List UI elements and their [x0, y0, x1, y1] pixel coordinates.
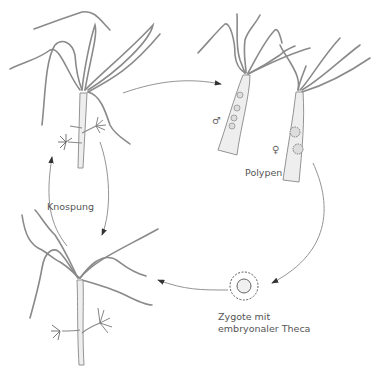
polyp-bottom-left-stalk — [51, 280, 112, 365]
polyp-top-left-stalk — [58, 93, 106, 168]
cycle-arrows — [49, 81, 324, 290]
male-polyp-body — [218, 75, 250, 155]
male-symbol-icon: ♂ — [212, 115, 221, 126]
zygote-icon — [230, 272, 258, 300]
bud-medusa-icon — [51, 325, 60, 340]
label-zygote-line2: embryonaler Theca — [218, 323, 310, 335]
male-polyp — [198, 14, 310, 74]
female-polyp-body — [283, 92, 304, 182]
female-symbol-icon: ♀ — [272, 144, 279, 155]
bud-medusa-icon — [96, 117, 106, 133]
polyp-bottom-left — [22, 210, 158, 318]
label-knospung: Knospung — [47, 201, 94, 213]
arrow-knospung-down — [100, 142, 109, 235]
arrow-to-bottom-polyp — [158, 280, 228, 290]
label-polypen: Polypen — [245, 167, 282, 179]
life-cycle-diagram — [0, 0, 386, 371]
bud-medusa-icon — [98, 308, 112, 333]
label-zygote-line1: Zygote mit — [218, 311, 270, 323]
arrow-to-male-polyp — [123, 81, 221, 93]
